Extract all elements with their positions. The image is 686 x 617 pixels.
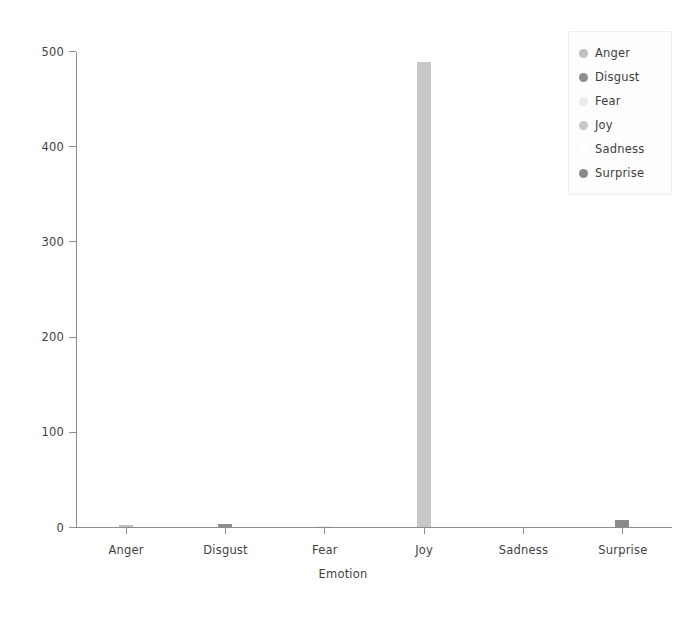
legend-item[interactable]: Surprise — [579, 161, 662, 185]
bar — [119, 525, 133, 527]
y-tick: 500 — [69, 51, 76, 52]
x-tick-label: Fear — [312, 543, 338, 557]
legend-label: Anger — [595, 46, 630, 60]
legend-marker-icon — [579, 121, 588, 130]
legend-marker-icon — [579, 49, 588, 58]
y-tick-label: 200 — [41, 330, 64, 344]
legend-item[interactable]: Fear — [579, 89, 662, 113]
x-tick: Anger — [126, 528, 127, 534]
x-tick-label: Disgust — [203, 543, 248, 557]
y-tick-label: 0 — [56, 521, 64, 535]
legend-marker-icon — [579, 73, 588, 82]
bar — [317, 526, 331, 527]
y-tick-label: 400 — [41, 140, 64, 154]
y-tick: 300 — [69, 241, 76, 242]
x-tick-label: Surprise — [598, 543, 647, 557]
y-axis-spine — [76, 52, 77, 528]
x-tick-label: Anger — [109, 543, 144, 557]
y-tick: 200 — [69, 337, 76, 338]
legend-marker-icon — [579, 145, 588, 154]
legend-marker-icon — [579, 169, 588, 178]
chart-figure: 0100200300400500 AngerDisgustFearJoySadn… — [0, 0, 686, 617]
y-tick: 400 — [69, 146, 76, 147]
legend-item[interactable]: Joy — [579, 113, 662, 137]
legend-item[interactable]: Sadness — [579, 137, 662, 161]
y-tick-label: 500 — [41, 45, 64, 59]
chart-legend: AngerDisgustFearJoySadnessSurprise — [568, 31, 672, 195]
x-tick: Sadness — [523, 528, 524, 534]
legend-item[interactable]: Anger — [579, 41, 662, 65]
legend-label: Joy — [595, 118, 613, 132]
x-axis-label: Emotion — [0, 567, 686, 581]
x-axis-spine — [76, 527, 672, 528]
y-tick-label: 300 — [41, 235, 64, 249]
legend-label: Fear — [595, 94, 621, 108]
bar — [417, 62, 431, 527]
y-tick: 0 — [69, 527, 76, 528]
legend-label: Disgust — [595, 70, 640, 84]
x-tick: Fear — [324, 528, 325, 534]
legend-label: Sadness — [595, 142, 644, 156]
x-tick: Joy — [424, 528, 425, 534]
x-tick-label: Joy — [415, 543, 433, 557]
y-tick: 100 — [69, 432, 76, 433]
bar — [615, 520, 629, 527]
x-tick-label: Sadness — [499, 543, 548, 557]
legend-marker-icon — [579, 97, 588, 106]
bar — [218, 524, 232, 527]
x-tick: Disgust — [225, 528, 226, 534]
x-tick: Surprise — [622, 528, 623, 534]
legend-label: Surprise — [595, 166, 644, 180]
legend-item[interactable]: Disgust — [579, 65, 662, 89]
y-tick-label: 100 — [41, 425, 64, 439]
